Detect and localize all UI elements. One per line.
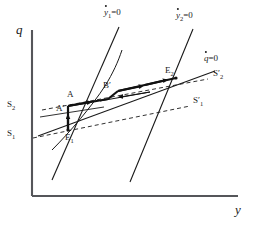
trajectory-arrow-1 — [68, 102, 90, 106]
b-prime-mark: ′ — [109, 80, 111, 90]
label-qdot-locus: q=0 — [204, 54, 218, 63]
point-E2-marker — [174, 76, 177, 79]
s2-left-subscript: 2 — [12, 104, 15, 111]
phase-diagram-figure: q y y1=0 y2=0 q=0 S2 S1 S′2 S′1 A A′ B′ … — [0, 0, 259, 232]
ydot1-equals-zero: =0 — [111, 7, 121, 17]
qdot-equals-zero: =0 — [209, 53, 219, 63]
label-S2-right: S′2 — [213, 69, 223, 80]
adjustment-trajectory-group — [68, 78, 176, 130]
label-B-prime: B′ — [103, 81, 111, 90]
ydot1-variable: y — [104, 8, 108, 17]
label-E2: E2 — [165, 66, 174, 77]
label-S1-right: S′1 — [193, 96, 203, 107]
label-A: A — [67, 90, 74, 99]
a-letter: A — [67, 89, 74, 99]
label-ydot1-locus: y1=0 — [104, 8, 121, 19]
label-q-axis: q — [16, 23, 23, 36]
trajectory-arrow-3 — [145, 80, 166, 85]
label-A-prime: A′ — [56, 104, 64, 113]
label-y-axis: y — [235, 203, 241, 216]
label-S1-left: S1 — [7, 129, 15, 140]
label-S2-left: S2 — [7, 100, 15, 111]
qdot-variable: q — [204, 54, 209, 63]
diagram-canvas — [0, 0, 259, 232]
ydot2-equals-zero: =0 — [183, 10, 193, 20]
label-E1: E1 — [65, 133, 74, 144]
e2-subscript: 2 — [171, 70, 174, 77]
qdot-locus-line — [38, 71, 215, 136]
e1-subscript: 1 — [71, 137, 74, 144]
s1-left-subscript: 1 — [12, 133, 15, 140]
a-prime-mark: ′ — [63, 103, 65, 113]
trajectory-arrow-2 — [118, 86, 142, 91]
ydot2-variable: y — [176, 11, 180, 20]
dot-accent-icon — [177, 8, 179, 10]
dot-accent-icon — [105, 5, 107, 7]
ydot2-locus-line — [130, 29, 193, 182]
label-ydot2-locus: y2=0 — [176, 11, 193, 22]
dot-accent-icon — [205, 51, 207, 53]
s2-right-subscript: 2 — [220, 73, 223, 80]
s1-right-subscript: 1 — [200, 100, 203, 107]
